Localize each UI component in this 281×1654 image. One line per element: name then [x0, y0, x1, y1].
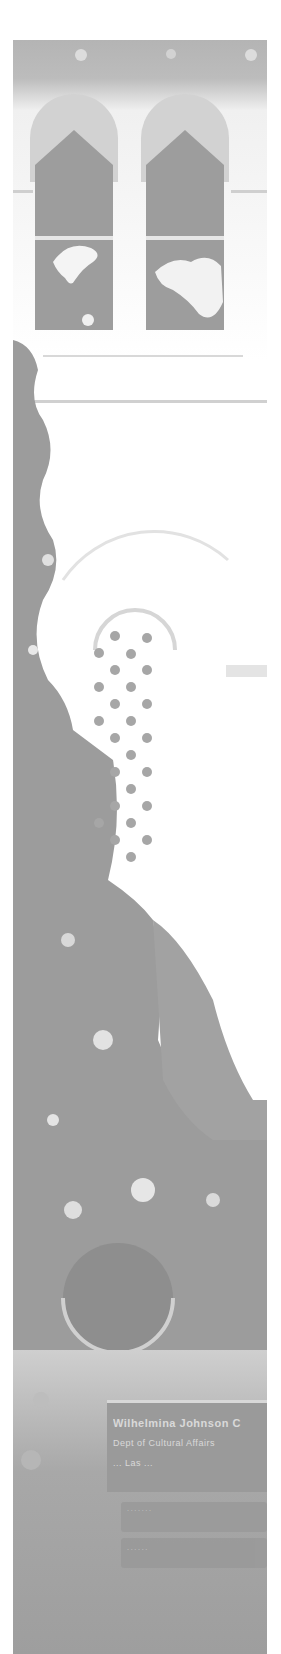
sign-sub-panel-1: · · · · · · ·	[121, 1502, 267, 1532]
sign-line-2: Dept of Cultural Affairs	[113, 1433, 267, 1453]
sign-line-3: ... Las ...	[113, 1453, 267, 1473]
building-sign: Wilhelmina Johnson C Dept of Cultural Af…	[107, 1400, 267, 1492]
wall-fixture	[226, 665, 267, 677]
sign-title: Wilhelmina Johnson C	[113, 1413, 267, 1433]
sign-sub-panel-2: · · · · · ·	[121, 1538, 267, 1568]
arched-window-right	[141, 94, 229, 330]
arched-window-left	[30, 94, 118, 330]
building-photo: Wilhelmina Johnson C Dept of Cultural Af…	[13, 40, 267, 1654]
